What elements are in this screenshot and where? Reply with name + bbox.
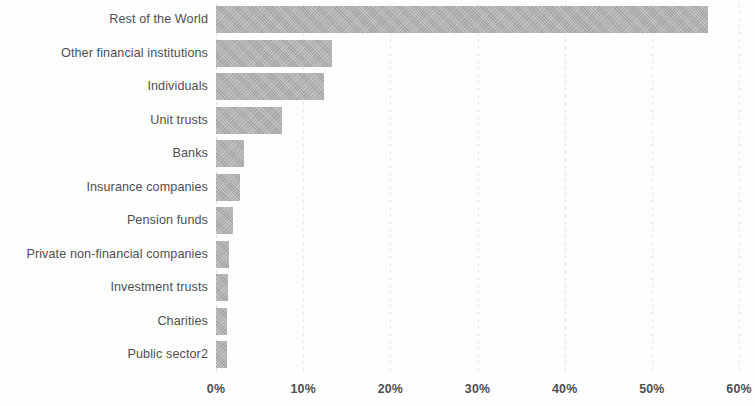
gridline-40% [565,4,566,374]
x-tick-label: 30% [465,382,490,396]
bar [216,207,233,234]
category-axis-labels: Rest of the WorldOther financial institu… [0,0,208,374]
x-tick-label: 20% [378,382,403,396]
x-tick-label: 50% [639,382,664,396]
category-label: Unit trusts [0,107,208,134]
category-label: Public sector2 [0,341,208,368]
bar [216,274,228,301]
value-axis-labels: 0%10%20%30%40%50%60% [0,382,755,406]
bar [216,107,282,134]
bar-chart: Rest of the WorldOther financial institu… [0,0,755,406]
category-label: Charities [0,308,208,335]
bar [216,40,332,67]
category-label: Insurance companies [0,174,208,201]
category-label: Banks [0,140,208,167]
bar [216,241,229,268]
plot-area [216,0,739,374]
x-tick-label: 60% [726,382,751,396]
category-label: Other financial institutions [0,40,208,67]
bar [216,140,244,167]
x-tick-label: 10% [290,382,315,396]
gridline-30% [478,4,479,374]
x-tick-label: 0% [207,382,225,396]
bar [216,174,240,201]
category-label: Rest of the World [0,6,208,33]
category-label: Private non-financial companies [0,241,208,268]
category-label: Investment trusts [0,274,208,301]
gridline-20% [390,4,391,374]
bar [216,73,324,100]
category-label: Individuals [0,73,208,100]
gridline-60% [739,4,740,374]
gridline-50% [652,4,653,374]
bar [216,341,227,368]
bar [216,308,227,335]
bar [216,6,708,33]
category-label: Pension funds [0,207,208,234]
x-tick-label: 40% [552,382,577,396]
